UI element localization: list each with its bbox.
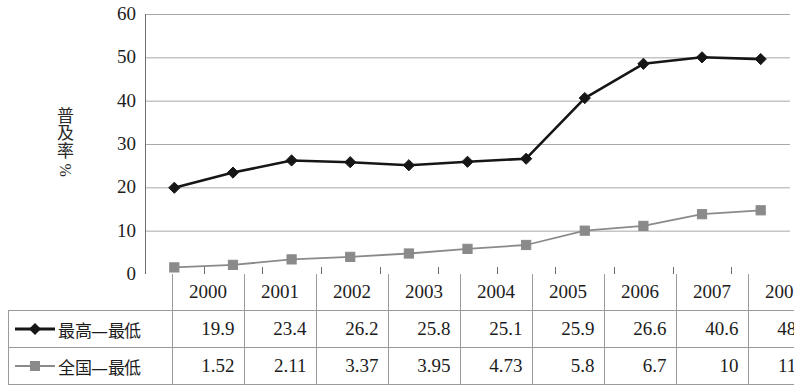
line-chart-svg (145, 14, 790, 274)
y-axis-tick-50: 50 (86, 46, 136, 68)
legend-diamond-marker-icon (13, 319, 57, 339)
data-point-s2-2006 (522, 240, 531, 249)
y-axis-tick-10: 10 (86, 220, 136, 242)
table-cell-s2-2008: 11.1 (748, 348, 794, 385)
table-header-year-2004: 2004 (460, 274, 532, 311)
table-cell-s1-2003: 25.8 (388, 311, 460, 348)
data-point-s1-2008 (638, 58, 649, 69)
series-line-2 (174, 210, 760, 267)
table-header-year-2002: 2002 (316, 274, 388, 311)
y-axis-tick-60: 60 (86, 3, 136, 25)
table-row: 全国—最低1.522.113.373.954.735.86.71011.113.… (9, 348, 794, 385)
table-cell-s1-2001: 23.4 (244, 311, 316, 348)
data-point-s2-2003 (346, 252, 355, 261)
y-axis-tick-20: 20 (86, 176, 136, 198)
table-cell-s2-2000: 1.52 (172, 348, 244, 385)
table-header-year-2001: 2001 (244, 274, 316, 311)
series-line-1 (174, 57, 760, 188)
data-point-s2-2004 (404, 249, 413, 258)
table-header-year-2007: 2007 (676, 274, 748, 311)
y-axis-tick-30: 30 (86, 133, 136, 155)
data-point-s1-2001 (227, 167, 238, 178)
table-header-year-2005: 2005 (532, 274, 604, 311)
table-header-row: 2000200120022003200420052006200720082009… (9, 274, 794, 311)
table-row: 最高—最低19.923.426.225.825.125.926.640.648.… (9, 311, 794, 348)
table-cell-s2-2007: 10 (676, 348, 748, 385)
y-axis-tick-40: 40 (86, 90, 136, 112)
table-header-year-2003: 2003 (388, 274, 460, 311)
table-cell-s1-2006: 26.6 (604, 311, 676, 348)
table-header-year-2006: 2006 (604, 274, 676, 311)
y-axis-title-unit: % (57, 157, 73, 183)
data-point-s1-2009 (696, 52, 707, 63)
table-cell-s2-2002: 3.37 (316, 348, 388, 385)
table-cell-s2-2001: 2.11 (244, 348, 316, 385)
table-header-year-2000: 2000 (172, 274, 244, 311)
legend-label-series-1: 最高—最低 (58, 317, 141, 342)
table-corner-cell (9, 274, 173, 311)
data-point-s2-2007 (580, 226, 589, 235)
data-point-s1-2002 (286, 155, 297, 166)
chart-figure: 普 及 率 % 6050403020100 200020012002200320… (0, 0, 794, 385)
data-point-s2-2009 (697, 210, 706, 219)
data-point-s1-2003 (345, 157, 356, 168)
data-point-s1-2010 (755, 53, 766, 64)
y-axis-title: 普 及 率 % (52, 108, 78, 178)
data-point-s2-2000 (170, 263, 179, 272)
data-point-s2-2005 (463, 244, 472, 253)
table-cell-s2-2005: 5.8 (532, 348, 604, 385)
table-cell-s1-2008: 48.5 (748, 311, 794, 348)
data-point-s2-2010 (756, 206, 765, 215)
legend-cell-series-1: 最高—最低 (9, 311, 173, 348)
table-cell-s2-2003: 3.95 (388, 348, 460, 385)
table-cell-s1-2005: 25.9 (532, 311, 604, 348)
data-point-s2-2001 (228, 260, 237, 269)
table-cell-s1-2007: 40.6 (676, 311, 748, 348)
table-cell-s2-2004: 4.73 (460, 348, 532, 385)
table-header-year-2008: 2008 (748, 274, 794, 311)
series-data-table: 2000200120022003200420052006200720082009… (8, 274, 794, 385)
data-point-s1-2000 (169, 182, 180, 193)
data-point-s2-2008 (639, 221, 648, 230)
table-cell-s1-2000: 19.9 (172, 311, 244, 348)
data-point-s1-2004 (403, 160, 414, 171)
legend-square-marker-icon (13, 356, 57, 376)
legend-label-series-2: 全国—最低 (58, 354, 141, 379)
legend-cell-series-2: 全国—最低 (9, 348, 173, 385)
table-cell-s1-2002: 26.2 (316, 311, 388, 348)
data-point-s1-2005 (462, 156, 473, 167)
table-cell-s2-2006: 6.7 (604, 348, 676, 385)
table-cell-s1-2004: 25.1 (460, 311, 532, 348)
data-point-s2-2002 (287, 255, 296, 264)
plot-area (145, 14, 790, 274)
